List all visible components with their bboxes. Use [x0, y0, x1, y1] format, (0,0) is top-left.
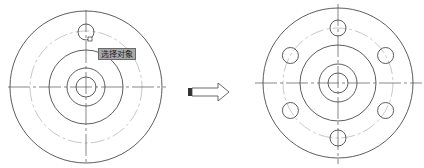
select-object-tooltip: 选择对象: [98, 48, 136, 60]
right-arrow-icon: [188, 83, 229, 101]
cursor-pickbox-icon: [88, 37, 92, 41]
cad-diagram: [0, 0, 424, 168]
left-flange-drawing: [8, 10, 166, 165]
right-flange-drawing: [255, 4, 422, 164]
